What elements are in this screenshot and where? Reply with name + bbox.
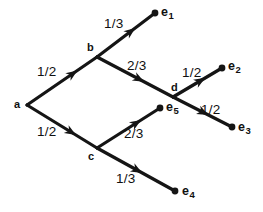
node-label-e4: e4: [182, 185, 194, 198]
node-label-d: d: [171, 82, 178, 93]
node-dots-layer: [152, 10, 236, 195]
node-label-e2: e2: [228, 60, 240, 73]
node-label-subscript-e5: 5: [173, 105, 178, 116]
node-label-base-e1: e: [161, 5, 168, 19]
edge-weight-d-e3: 1/2: [201, 103, 220, 117]
edge-weight-c-e4: 1/3: [116, 172, 135, 186]
node-label-c: c: [88, 151, 94, 162]
node-label-base-e2: e: [228, 59, 235, 73]
node-label-subscript-e3: 3: [245, 125, 250, 136]
node-label-subscript-e2: 2: [235, 64, 240, 75]
edge-weight-d-e2: 1/2: [182, 66, 201, 80]
node-dot-e2[interactable]: [219, 65, 226, 72]
node-label-a: a: [14, 99, 20, 110]
node-dot-e4[interactable]: [172, 188, 179, 195]
node-label-subscript-e1: 1: [168, 10, 173, 21]
node-label-e1: e1: [161, 6, 173, 19]
node-label-b: b: [87, 42, 94, 53]
probability-tree-diagram: abcde1e2e3e4e51/21/21/32/31/21/22/31/3: [0, 0, 263, 212]
node-dot-e1[interactable]: [152, 10, 159, 17]
node-label-base-e5: e: [166, 100, 173, 114]
node-label-base-e3: e: [238, 120, 245, 134]
edge-weight-a-b: 1/2: [37, 65, 56, 79]
node-label-e3: e3: [238, 121, 250, 134]
node-label-subscript-e4: 4: [189, 189, 194, 200]
arrowheads-layer: [64, 28, 209, 173]
edge-weight-b-d: 2/3: [127, 59, 146, 73]
node-dot-e5[interactable]: [157, 105, 164, 112]
edge-weight-b-e1: 1/3: [104, 17, 123, 31]
edge-weight-a-c: 1/2: [37, 125, 56, 139]
node-label-base-e4: e: [182, 184, 189, 198]
node-dot-e3[interactable]: [229, 124, 236, 131]
node-label-e5: e5: [166, 101, 178, 114]
edge-weight-c-e5: 2/3: [124, 127, 143, 141]
